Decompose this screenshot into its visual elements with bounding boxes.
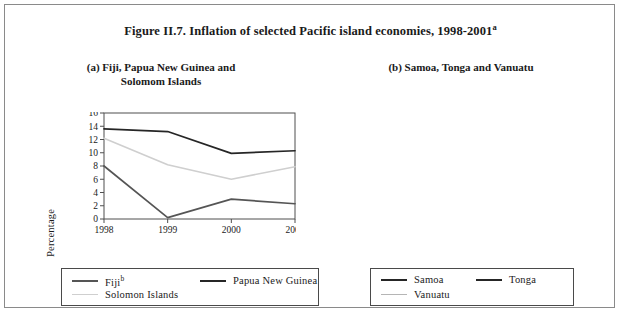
legend-label: Papua New Guinea [233, 275, 317, 286]
panel-a-svg: 02468101214161998199920002001 [84, 112, 296, 237]
legend-swatch-icon [381, 294, 407, 295]
x-tick-label: 1999 [158, 225, 177, 235]
panel-b-heading-line1: (b) Samoa, Tonga and Vanuatu [311, 60, 611, 74]
legend-row: FijibPapua New Guinea [72, 274, 330, 288]
legend-label: Tonga [509, 274, 536, 285]
legend-swatch-icon [72, 294, 98, 295]
y-tick-label: 2 [93, 201, 98, 211]
legend-label: Samoa [414, 274, 444, 285]
legend-item-samoa[interactable]: Samoa [381, 274, 476, 285]
panel-a-plot-area: 02468101214161998199920002001 [84, 112, 296, 237]
legend-footnote-marker: b [120, 274, 124, 283]
x-tick-label: 1998 [95, 225, 114, 235]
x-tick-label: 2001 [286, 225, 297, 235]
legend-label: Solomon Islands [105, 289, 178, 300]
figure-frame: Figure II.7. Inflation of selected Pacif… [4, 4, 615, 308]
y-tick-label: 8 [93, 161, 98, 171]
y-tick-label: 16 [89, 112, 99, 118]
legend-swatch-icon [381, 279, 407, 281]
y-tick-label: 14 [89, 122, 99, 132]
figure-title: Figure II.7. Inflation of selected Pacif… [5, 22, 616, 39]
y-tick-label: 6 [93, 175, 98, 185]
legend-label: Fijib [105, 274, 124, 288]
legend-item-solomon-islands[interactable]: Solomon Islands [72, 289, 200, 300]
series-line-fiji [104, 166, 295, 218]
x-tick-label: 2000 [222, 225, 241, 235]
figure-title-footnote-marker: a [492, 22, 496, 32]
legend-label: Vanuatu [414, 289, 450, 300]
legend-row: SamoaTonga [381, 274, 566, 285]
legend-swatch-icon [476, 279, 502, 281]
panel-b-legend: SamoaTongaVanuatu [370, 268, 574, 306]
legend-item-tonga[interactable]: Tonga [476, 274, 566, 285]
panel-a-heading-line1: (a) Fiji, Papua New Guinea and [11, 60, 311, 74]
figure-title-text: Figure II.7. Inflation of selected Pacif… [124, 24, 492, 38]
y-tick-label: 10 [89, 148, 99, 158]
y-tick-label: 0 [93, 214, 98, 224]
y-tick-label: 4 [93, 188, 98, 198]
panel-b-heading: (b) Samoa, Tonga and Vanuatu [311, 60, 611, 74]
legend-swatch-icon [72, 280, 98, 282]
panel-a-heading: (a) Fiji, Papua New Guinea and Solomom I… [11, 60, 311, 88]
panel-a-legend: FijibPapua New GuineaSolomon Islands [61, 268, 319, 306]
panel-a-heading-line2: Solomom Islands [11, 74, 311, 88]
legend-item-fiji[interactable]: Fijib [72, 274, 200, 288]
series-line-solomon-islands [104, 138, 295, 179]
y-tick-label: 12 [89, 135, 99, 145]
legend-swatch-icon [200, 280, 226, 282]
legend-item-papua-new-guinea[interactable]: Papua New Guinea [200, 275, 330, 286]
legend-item-vanuatu[interactable]: Vanuatu [381, 289, 476, 300]
legend-row: Solomon Islands [72, 289, 200, 300]
panel-a-y-axis-label: Percentage [45, 209, 56, 257]
plot-frame [104, 113, 295, 219]
legend-row: Vanuatu [381, 289, 476, 300]
